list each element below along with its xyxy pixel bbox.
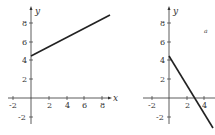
left-data-line <box>31 15 110 56</box>
right-xtick: 4 <box>202 101 207 110</box>
right-y-axis-arrow-icon <box>168 6 171 10</box>
right-ytick: 2 <box>160 75 165 84</box>
right-ytick: 8 <box>160 19 165 28</box>
left-y-axis-label: y <box>34 6 41 16</box>
right-ytick: 4 <box>160 56 165 65</box>
left-ytick: 2 <box>22 75 27 84</box>
left-ytick: 6 <box>22 38 27 47</box>
left-ytick: 8 <box>22 19 27 28</box>
left-xtick: 6 <box>82 101 87 110</box>
right-xtick: 2 <box>185 101 190 110</box>
left-y-axis-arrow-icon <box>30 6 33 10</box>
right-y-axis-label: y <box>172 6 179 16</box>
stray-mark: a <box>204 27 208 34</box>
left-xtick: -2 <box>9 101 17 110</box>
left-xtick: 2 <box>47 101 52 110</box>
figure: x y -2 2 4 6 8 8 6 4 2 -2 <box>0 0 215 135</box>
right-chart: y -2 2 4 8 6 4 2 -2 a <box>143 6 215 128</box>
left-ytick: 4 <box>22 56 27 65</box>
left-xtick: 8 <box>100 101 105 110</box>
left-ytick: -2 <box>18 113 26 122</box>
right-ytick: 6 <box>160 38 165 47</box>
right-ytick: -2 <box>156 113 164 122</box>
left-x-axis-arrow-icon <box>108 97 112 100</box>
left-xtick: 4 <box>65 101 70 110</box>
right-data-line <box>169 56 213 128</box>
left-chart: x y -2 2 4 6 8 8 6 4 2 -2 <box>8 6 118 124</box>
right-xtick: -2 <box>148 101 156 110</box>
left-x-axis-label: x <box>113 93 118 103</box>
